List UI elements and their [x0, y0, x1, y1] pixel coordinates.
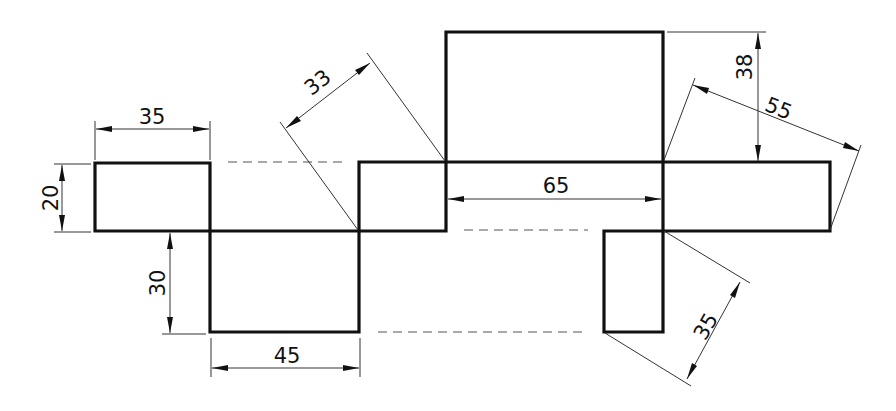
svg-text:35: 35 — [139, 105, 166, 129]
svg-text:33: 33 — [300, 65, 336, 100]
dimension-45: 45 — [211, 338, 360, 377]
dimension-35-top: 35 — [95, 105, 210, 160]
svg-text:55: 55 — [762, 92, 796, 124]
dimension-30: 30 — [146, 233, 206, 334]
svg-text:65: 65 — [543, 174, 570, 198]
svg-text:30: 30 — [146, 270, 170, 297]
dimension-33: 33 — [280, 53, 445, 230]
svg-text:38: 38 — [733, 54, 757, 81]
svg-text:45: 45 — [274, 344, 301, 368]
dimension-20-left: 20 — [39, 164, 91, 232]
net-drawing: 35 20 30 45 33 65 — [0, 0, 896, 411]
net-outline — [95, 32, 830, 332]
dimension-35-lower-right: 35 — [605, 231, 750, 386]
dimension-38: 38 — [667, 32, 766, 161]
svg-text:35: 35 — [689, 309, 723, 344]
svg-text:20: 20 — [39, 185, 63, 212]
dimension-65: 65 — [448, 174, 661, 202]
